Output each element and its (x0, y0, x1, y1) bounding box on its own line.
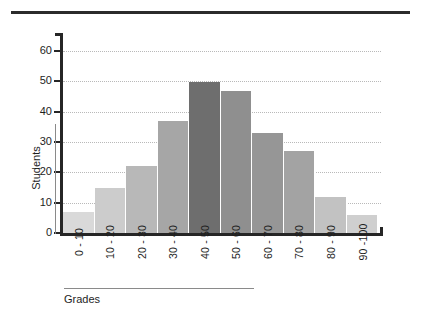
y-axis-tick-label: 40 (22, 106, 52, 118)
x-axis-tick-label: 30 - 40 (158, 236, 190, 292)
bar (252, 133, 284, 233)
header-divider (11, 11, 410, 14)
x-axis-tick-label-text: 50 - 60 (230, 225, 242, 259)
x-axis-tick-label: 60 - 70 (252, 236, 284, 292)
x-axis-tick-label: 0 - 10 (63, 236, 95, 292)
x-axis-tick-label: 40 - 50 (189, 236, 221, 292)
x-axis-title-group: Grades (64, 288, 254, 310)
chart-figure: 0102030405060 0 - 1010 - 2020 - 3030 - 4… (0, 0, 421, 314)
x-axis-tick-label: 80 - 90 (315, 236, 347, 292)
x-axis-tick-label-text: 0 - 10 (73, 228, 85, 256)
y-axis-tick-label: 50 (22, 75, 52, 87)
bar-series (63, 33, 378, 233)
x-axis-title-rule (64, 288, 254, 289)
x-axis-end-cap (380, 227, 383, 236)
x-axis-tick-label: 90 -100 (347, 236, 379, 292)
x-axis-tick-label: 70 - 80 (284, 236, 316, 292)
x-axis-tick-label-group: 0 - 1010 - 2020 - 3030 - 4040 - 5050 - 6… (63, 236, 378, 292)
x-axis-tick-label: 50 - 60 (221, 236, 253, 292)
x-axis-tick-label-text: 10 - 20 (104, 225, 116, 259)
x-axis-tick-label-text: 20 - 30 (136, 225, 148, 259)
y-axis-title-group: Students (16, 124, 56, 234)
y-axis-title: Students (30, 126, 42, 210)
y-axis-title-rule (55, 124, 56, 234)
x-axis-tick-label: 20 - 30 (126, 236, 158, 292)
y-axis-tick-label-text: 40 (26, 106, 52, 117)
bar (189, 82, 221, 234)
bar (221, 91, 253, 233)
bar (158, 121, 190, 233)
x-axis-tick-label: 10 - 20 (95, 236, 127, 292)
x-axis-tick-label-text: 30 - 40 (167, 225, 179, 259)
bar (126, 166, 158, 233)
y-axis-top-cap (55, 33, 63, 36)
x-axis-tick-label-text: 80 - 90 (325, 225, 337, 259)
y-axis-tick-label-text: 50 (26, 75, 52, 86)
x-axis-tick-label-text: 40 - 50 (199, 225, 211, 259)
x-axis-tick-label-text: 90 -100 (356, 223, 368, 260)
y-axis-tick-label: 60 (22, 45, 52, 57)
x-axis-title: Grades (64, 293, 100, 305)
x-axis-tick-label-text: 70 - 80 (293, 225, 305, 259)
x-axis-tick-label-text: 60 - 70 (262, 225, 274, 259)
bar (284, 151, 316, 233)
y-axis-tick-label-text: 60 (26, 45, 52, 56)
